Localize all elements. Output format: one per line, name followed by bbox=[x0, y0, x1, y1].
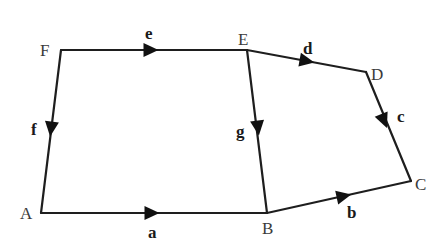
edge-label-b: b bbox=[347, 203, 356, 222]
vertex-label-D: D bbox=[371, 65, 383, 84]
arrows-layer bbox=[45, 43, 388, 220]
vertex-label-C: C bbox=[415, 175, 426, 194]
edge-labels-layer: abcdefg bbox=[31, 24, 405, 242]
vertex-label-A: A bbox=[20, 204, 33, 223]
vertex-labels-layer: ABCDEF bbox=[20, 30, 426, 238]
arrowhead-icon bbox=[375, 111, 388, 128]
arrowhead-icon bbox=[144, 43, 159, 57]
vertex-label-E: E bbox=[238, 30, 248, 49]
edges-layer bbox=[41, 50, 411, 213]
graph-canvas: ABCDEF abcdefg bbox=[0, 0, 447, 242]
edge-label-f: f bbox=[31, 120, 37, 139]
edge-label-c: c bbox=[397, 107, 405, 126]
vertex-label-F: F bbox=[40, 41, 49, 60]
edge-label-e: e bbox=[145, 24, 153, 43]
edge-label-d: d bbox=[303, 39, 313, 58]
arrowhead-icon bbox=[45, 121, 59, 137]
edge-label-g: g bbox=[236, 122, 245, 141]
edge-c-line bbox=[366, 72, 411, 181]
vertex-label-B: B bbox=[262, 219, 273, 238]
edge-label-a: a bbox=[148, 223, 157, 242]
arrowhead-icon bbox=[145, 206, 160, 220]
directed-graph-diagram: ABCDEF abcdefg bbox=[0, 0, 447, 242]
